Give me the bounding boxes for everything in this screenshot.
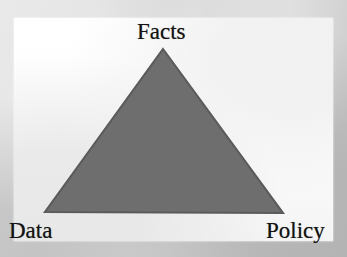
vertex-label-policy: Policy bbox=[266, 219, 325, 242]
figure-panel bbox=[14, 18, 333, 241]
vertex-label-facts: Facts bbox=[137, 20, 186, 43]
vertex-label-data: Data bbox=[9, 219, 52, 242]
filled-triangle-icon bbox=[45, 49, 283, 213]
scanned-figure-page: Facts Data Policy bbox=[0, 0, 347, 257]
triangle-shape bbox=[14, 18, 333, 241]
